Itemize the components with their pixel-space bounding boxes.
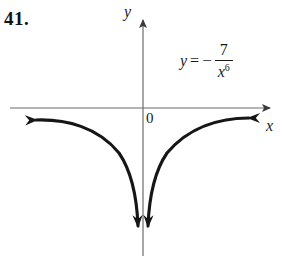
graph-canvas (0, 0, 282, 256)
y-axis-label: y (124, 3, 131, 21)
x-axis-label: x (266, 117, 273, 135)
equation-label: y = − 7 x6 (180, 42, 233, 81)
equation-minus-sign: − (202, 51, 212, 71)
denominator-exponent: 6 (225, 62, 230, 73)
fraction-numerator: 7 (216, 42, 232, 59)
equation-lhs: y (180, 52, 187, 70)
figure-container: 41. y x 0 y = − 7 x6 (0, 0, 282, 256)
origin-label: 0 (146, 110, 154, 127)
equation-fraction: 7 x6 (215, 42, 233, 81)
equation-equals: = (190, 52, 199, 70)
denominator-base: x (218, 63, 225, 80)
curve-right-branch (148, 118, 249, 226)
fraction-denominator: x6 (215, 62, 233, 81)
fraction-bar (215, 60, 233, 61)
curve-left-branch (36, 120, 138, 226)
